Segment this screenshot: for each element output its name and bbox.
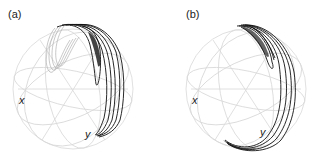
panel-label-a: (a) bbox=[8, 8, 21, 20]
y-axis-label-a: y bbox=[85, 128, 91, 140]
sphere-plot-a bbox=[0, 0, 156, 160]
x-axis-label-a: x bbox=[19, 94, 25, 106]
panel-b: (b) x y bbox=[157, 0, 313, 160]
sphere-plot-b bbox=[157, 0, 313, 160]
trajectories bbox=[57, 24, 124, 137]
sphere-wireframe bbox=[5, 15, 141, 160]
panel-label-b: (b) bbox=[186, 8, 199, 20]
sphere-wireframe bbox=[178, 15, 313, 160]
panel-a: (a) x y bbox=[0, 0, 156, 160]
dense-cluster bbox=[88, 32, 100, 67]
x-axis-label-b: x bbox=[192, 94, 198, 106]
y-axis-label-b: y bbox=[260, 126, 266, 138]
